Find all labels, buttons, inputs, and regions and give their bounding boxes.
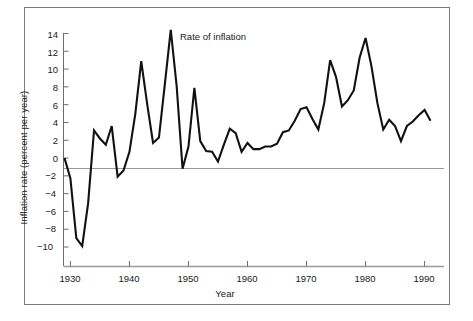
chart-plot [0, 0, 473, 321]
figure-container: 14 12 10 8 6 4 2 0 −2 −4 −6 −8 −10 1930 … [0, 0, 473, 321]
y-axis-ticks [64, 34, 69, 248]
inflation-rate-line [65, 30, 431, 246]
x-axis-ticks [70, 261, 424, 267]
